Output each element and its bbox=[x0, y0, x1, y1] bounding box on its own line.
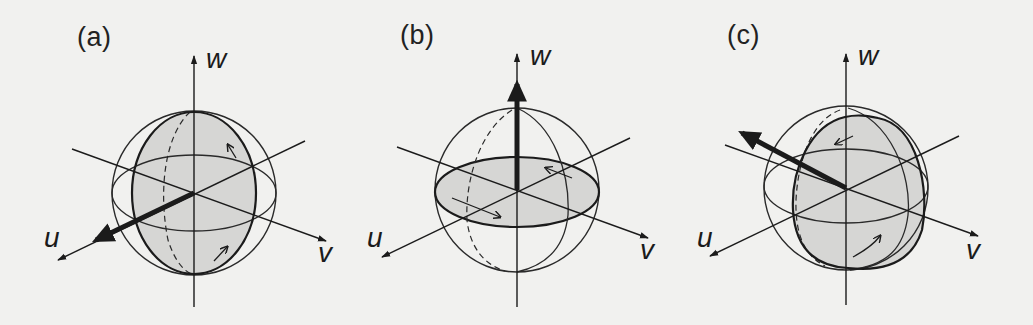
panel-a-back-meridian bbox=[164, 112, 192, 274]
panel-b-sphere bbox=[435, 108, 599, 272]
panel-c-sphere bbox=[764, 106, 928, 270]
panel-c-direction-arrow-bottom bbox=[853, 236, 880, 257]
panel-a-u-label: u bbox=[44, 222, 60, 254]
panel-c-back-edge bbox=[796, 110, 840, 266]
panel-c-meridian bbox=[848, 108, 908, 270]
panel-c-u-axis bbox=[710, 136, 959, 256]
panel-a-rotation-plane bbox=[132, 112, 256, 274]
panel-a-direction-arrow-top bbox=[228, 145, 236, 158]
panel-c-direction-arrow-top bbox=[836, 136, 853, 144]
panel-b-v-label: v bbox=[640, 234, 654, 266]
sphere-rotation-figure: (a) w u v (b) w u v (c) w u v bbox=[0, 0, 1033, 325]
panel-b-rotation-plane bbox=[435, 157, 599, 227]
panel-c-label: (c) bbox=[727, 20, 760, 51]
panel-b-w-label: w bbox=[530, 40, 550, 72]
panel-c-drawing bbox=[710, 54, 978, 305]
panel-c-rotation-plane bbox=[793, 115, 924, 268]
panel-b-v-axis bbox=[397, 147, 648, 238]
panel-a-v-label: v bbox=[318, 237, 332, 269]
panel-a-rotation-axis bbox=[96, 193, 194, 240]
panel-c-equator bbox=[764, 149, 928, 223]
bleed-through-text bbox=[560, 5, 564, 25]
panel-a-u-axis bbox=[58, 141, 305, 260]
panel-b-back-meridian bbox=[467, 110, 512, 271]
panel-b-u-label: u bbox=[367, 222, 383, 254]
panel-c-plane-outline bbox=[793, 115, 924, 268]
panel-b-drawing bbox=[382, 54, 648, 307]
panel-a-plane-outline bbox=[132, 112, 256, 274]
panel-b-u-axis bbox=[382, 138, 630, 257]
panel-c-v-axis bbox=[725, 145, 978, 236]
panel-a-sphere bbox=[112, 111, 276, 275]
panel-c-rotation-axis bbox=[742, 133, 846, 188]
panel-a-label: (a) bbox=[77, 22, 112, 53]
panel-a-direction-arrow-bottom bbox=[214, 247, 227, 261]
panel-b-label: (b) bbox=[400, 20, 435, 51]
panel-c-u-label: u bbox=[697, 222, 713, 254]
panel-a-v-axis bbox=[72, 149, 326, 241]
panel-c-v-label: v bbox=[966, 234, 980, 266]
panel-a-w-label: w bbox=[206, 43, 226, 75]
panel-c-w-label: w bbox=[858, 40, 878, 72]
panel-b-direction-arrow-front bbox=[452, 198, 500, 217]
panel-b-direction-arrow-back bbox=[546, 168, 572, 178]
panel-a-equator bbox=[112, 155, 276, 231]
panel-b-front-meridian bbox=[517, 108, 568, 272]
panel-a-drawing bbox=[58, 56, 326, 307]
